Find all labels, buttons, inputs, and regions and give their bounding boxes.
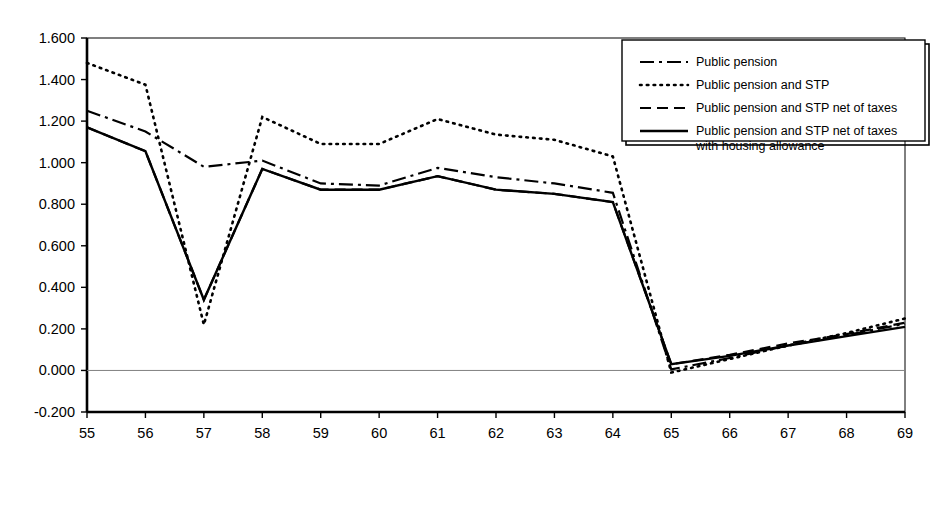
x-tick-label: 59 xyxy=(313,425,329,441)
y-tick-label: 0.400 xyxy=(39,279,75,295)
legend-label-2: Public pension and STP net of taxes xyxy=(696,101,897,115)
line-chart: -0.2000.0000.2000.4000.6000.8001.0001.20… xyxy=(0,0,946,508)
legend-label-1: Public pension and STP xyxy=(696,78,829,92)
x-tick-label: 64 xyxy=(605,425,621,441)
x-tick-label: 62 xyxy=(488,425,504,441)
x-tick-label: 60 xyxy=(371,425,387,441)
chart-container: -0.2000.0000.2000.4000.6000.8001.0001.20… xyxy=(0,0,946,508)
legend-label-3: Public pension and STP net of taxes xyxy=(696,124,897,138)
y-tick-label: 1.400 xyxy=(39,72,75,88)
x-tick-label: 58 xyxy=(254,425,270,441)
x-tick-label: 66 xyxy=(722,425,738,441)
x-tick-label: 57 xyxy=(196,425,212,441)
x-axis-ticks: 555657585960616263646566676869 xyxy=(79,412,913,441)
y-tick-label: 0.800 xyxy=(39,196,75,212)
y-tick-label: 1.600 xyxy=(39,30,75,46)
y-tick-label: 0.000 xyxy=(39,362,75,378)
x-tick-label: 56 xyxy=(137,425,153,441)
x-tick-label: 65 xyxy=(663,425,679,441)
y-tick-label: 0.200 xyxy=(39,321,75,337)
x-tick-label: 61 xyxy=(430,425,446,441)
x-tick-label: 68 xyxy=(839,425,855,441)
y-tick-label: -0.200 xyxy=(34,404,75,420)
legend-label-3-line2: with housing allowance xyxy=(695,139,825,153)
x-tick-label: 63 xyxy=(546,425,562,441)
y-tick-label: 1.200 xyxy=(39,113,75,129)
x-tick-label: 55 xyxy=(79,425,95,441)
x-tick-label: 69 xyxy=(897,425,913,441)
legend-label-0: Public pension xyxy=(696,55,777,69)
x-tick-label: 67 xyxy=(780,425,796,441)
y-tick-label: 0.600 xyxy=(39,238,75,254)
chart-legend: Public pensionPublic pension and STPPubl… xyxy=(622,40,929,153)
y-tick-label: 1.000 xyxy=(39,155,75,171)
